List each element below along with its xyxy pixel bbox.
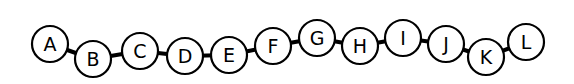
node-K: K	[468, 39, 504, 75]
node-label: E	[223, 44, 235, 66]
node-label: F	[268, 35, 279, 57]
node-label: J	[442, 33, 449, 55]
node-I: I	[385, 20, 421, 56]
node-label: C	[133, 40, 146, 62]
node-B: B	[75, 41, 111, 77]
node-J: J	[428, 26, 464, 62]
node-label: B	[86, 48, 99, 70]
bead-chain-diagram: ABCDEFGHIJKL	[0, 0, 574, 84]
node-label: D	[178, 45, 193, 67]
node-L: L	[508, 24, 544, 60]
node-E: E	[211, 37, 247, 73]
node-label: A	[44, 33, 57, 55]
node-H: H	[342, 28, 378, 64]
node-label: K	[480, 46, 493, 68]
node-F: F	[255, 28, 291, 64]
node-label: L	[521, 31, 532, 53]
node-D: D	[167, 38, 203, 74]
node-G: G	[299, 20, 335, 56]
node-label: G	[310, 27, 325, 49]
node-label: H	[353, 35, 367, 57]
node-C: C	[122, 33, 158, 69]
node-A: A	[32, 26, 68, 62]
node-label: I	[400, 27, 406, 49]
